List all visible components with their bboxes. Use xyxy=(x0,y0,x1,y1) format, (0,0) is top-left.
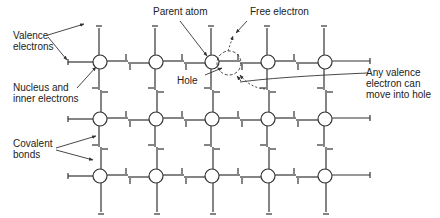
atom-nucleus xyxy=(93,112,107,126)
label-any-valence-electron: Any valence electron can move into hole xyxy=(366,67,431,100)
atom-nucleus xyxy=(149,112,163,126)
label-hole: Hole xyxy=(177,75,198,86)
label-parent-atom: Parent atom xyxy=(153,6,207,17)
label-nucleus-inner-electrons: Nucleus and inner electrons xyxy=(13,82,79,104)
atom-nucleus xyxy=(318,112,332,126)
atom-nucleus xyxy=(149,55,163,69)
atom-nucleus xyxy=(318,169,332,183)
atom-nucleus xyxy=(261,112,275,126)
atom-nucleus xyxy=(93,169,107,183)
atom-nucleus xyxy=(205,112,219,126)
atom-nucleus xyxy=(261,55,275,69)
crystal-lattice-diagram xyxy=(0,0,440,218)
atom-nucleus xyxy=(205,55,219,69)
label-covalent-bonds: Covalent bonds xyxy=(13,138,52,160)
atom-nucleus xyxy=(261,169,275,183)
label-valence-electrons: Valence electrons xyxy=(13,30,54,52)
annotation-arrows xyxy=(48,21,368,160)
atom-nucleus xyxy=(149,169,163,183)
lattice-grid xyxy=(68,26,370,214)
atom-nucleus xyxy=(205,169,219,183)
atom-nucleus xyxy=(93,55,107,69)
atom-nucleus xyxy=(318,55,332,69)
label-free-electron: Free electron xyxy=(250,6,309,17)
